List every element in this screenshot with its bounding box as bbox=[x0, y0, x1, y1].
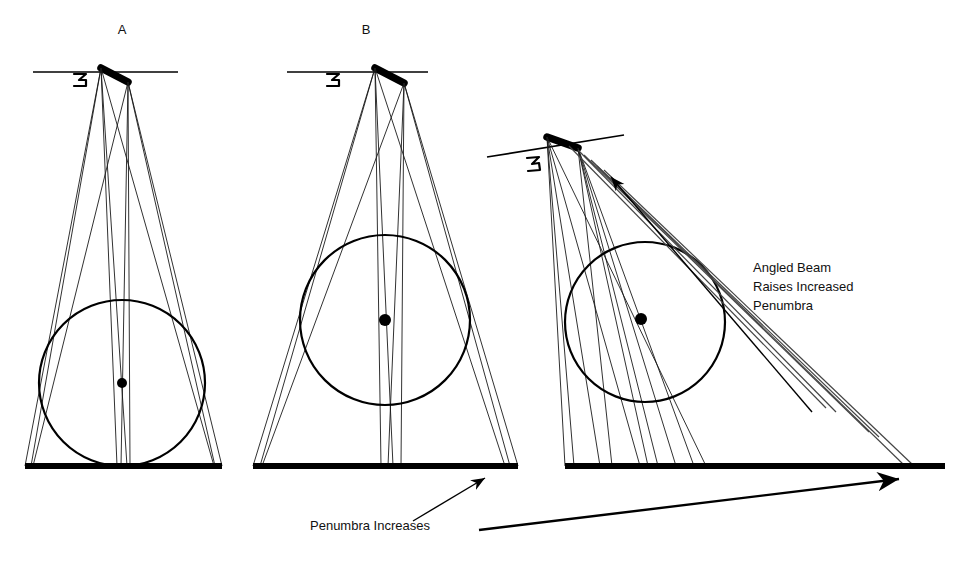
penumbra-increases-caption: Penumbra Increases bbox=[310, 518, 430, 533]
panel-a-rays bbox=[25, 68, 222, 466]
panel-b: B bbox=[253, 22, 518, 466]
panel-c-marker-3-icon bbox=[527, 157, 540, 171]
angled-beam-note: Angled Beam Raises Increased Penumbra bbox=[753, 260, 853, 313]
panel-c bbox=[487, 135, 945, 466]
diagram-canvas: A B bbox=[0, 0, 966, 565]
angled-beam-note-line-2: Raises Increased bbox=[753, 279, 853, 294]
angled-beam-note-line-3: Penumbra bbox=[753, 298, 814, 313]
penumbra-increases-text: Penumbra Increases bbox=[310, 518, 430, 533]
panel-c-angled-beam bbox=[569, 146, 914, 466]
panel-a-light-source bbox=[101, 68, 128, 82]
panel-c-object-center-dot bbox=[635, 313, 647, 325]
arrow-to-panel-c-base bbox=[479, 479, 899, 530]
panel-b-label: B bbox=[362, 22, 371, 37]
panel-a-object-center-dot bbox=[117, 378, 127, 388]
arrow-to-panel-b-base bbox=[413, 478, 485, 521]
panel-c-angled-beam-arrow bbox=[611, 177, 812, 412]
angled-beam-note-line-1: Angled Beam bbox=[753, 260, 831, 275]
penumbra-diagram-svg: A B bbox=[0, 0, 966, 565]
panel-a: A bbox=[25, 22, 222, 466]
panel-c-rays bbox=[547, 137, 706, 466]
panel-b-rays bbox=[253, 68, 518, 466]
panel-a-marker-3-icon bbox=[74, 74, 86, 86]
panel-b-object-center-dot bbox=[379, 314, 391, 326]
panel-b-marker-3-icon bbox=[327, 74, 339, 86]
panel-a-label: A bbox=[118, 22, 127, 37]
